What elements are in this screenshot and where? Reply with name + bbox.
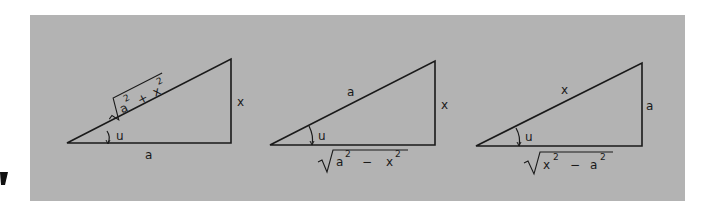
svg-text:a: a <box>117 100 130 116</box>
svg-text:a: a <box>336 155 343 169</box>
hypotenuse-label: x <box>561 83 568 97</box>
svg-text:+: + <box>135 90 150 107</box>
adjacent-label: x 2 − a 2 <box>524 152 613 174</box>
opposite-label: x <box>237 95 244 109</box>
angle-label: u <box>116 129 124 143</box>
angle-label: u <box>525 130 533 144</box>
svg-text:a: a <box>590 158 597 172</box>
adjacent-label: a <box>145 148 152 162</box>
svg-text:2: 2 <box>395 149 401 159</box>
hypotenuse-label: a 2 + x 2 <box>102 73 173 124</box>
opposite-label: a <box>646 99 653 113</box>
hypotenuse-label: a <box>347 85 354 99</box>
opposite-label: x <box>441 98 448 112</box>
svg-text:2: 2 <box>553 152 559 162</box>
svg-text:x: x <box>543 158 550 172</box>
svg-text:2: 2 <box>345 149 351 159</box>
triangle-1: u a x a 2 + x 2 <box>67 59 244 162</box>
triangle-3: u x a x 2 − a 2 <box>476 63 653 174</box>
triangle-2: u a x a 2 − x 2 <box>270 61 448 172</box>
svg-text:x: x <box>150 84 163 100</box>
svg-text:x: x <box>386 155 393 169</box>
trig-substitution-triangles: u a x a 2 + x 2 u a x a 2 − x 2 <box>0 0 703 212</box>
angle-label: u <box>318 129 326 143</box>
svg-text:−: − <box>570 158 580 172</box>
adjacent-label: a 2 − x 2 <box>318 149 408 172</box>
svg-text:2: 2 <box>600 152 606 162</box>
svg-text:−: − <box>362 155 372 169</box>
